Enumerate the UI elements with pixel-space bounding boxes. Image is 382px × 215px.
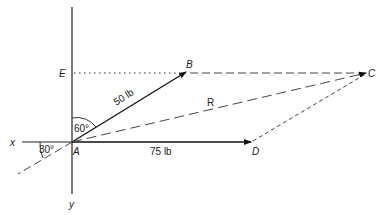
label-d: D <box>252 146 259 157</box>
vector-diagram: E B C A D x y 50 lb 75 lb R 60° 30° <box>0 0 382 215</box>
label-e: E <box>59 68 66 79</box>
label-60deg: 60° <box>74 123 89 134</box>
label-a: A <box>72 146 80 157</box>
label-30deg: 30° <box>39 144 54 155</box>
label-b: B <box>186 59 193 70</box>
label-c: C <box>368 68 376 79</box>
label-75lb: 75 lb <box>150 146 172 157</box>
label-x: x <box>9 137 16 148</box>
line-dc <box>253 75 364 141</box>
vector-r <box>72 73 366 142</box>
label-y: y <box>68 199 75 210</box>
label-r: R <box>207 97 214 108</box>
